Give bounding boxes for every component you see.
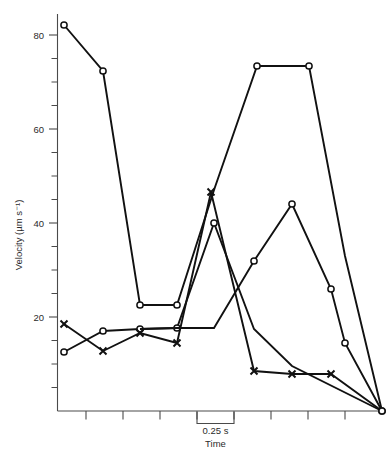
series-4-markers (251, 201, 348, 346)
data-point-marker (328, 286, 334, 292)
scale-bar-bracket (197, 412, 234, 424)
series-1-group (61, 22, 385, 414)
y-axis-title: Velocity (µm s⁻¹) (13, 200, 24, 271)
y-tick-label-40: 40 (33, 218, 44, 229)
y-tick-label-80: 80 (33, 30, 44, 41)
data-point-marker (100, 328, 106, 334)
series-1-line (64, 25, 382, 411)
x-axis-ticks (86, 411, 345, 420)
series-1-markers (61, 22, 385, 414)
data-point-marker (61, 22, 67, 28)
velocity-time-chart: 80 60 40 20 Velocity (µm s⁻¹) 0.25 s Tim… (0, 0, 388, 452)
data-point-marker (342, 340, 348, 346)
scale-bar-group: 0.25 s Time (197, 412, 234, 449)
data-point-marker (61, 349, 67, 355)
data-point-marker (211, 220, 217, 226)
data-point-marker (174, 302, 180, 308)
data-point-marker (137, 302, 143, 308)
y-tick-label-20: 20 (33, 312, 44, 323)
x-axis-title: Time (205, 438, 226, 449)
series-3-markers (61, 189, 335, 378)
data-point-marker (61, 321, 68, 328)
data-point-marker (251, 258, 257, 264)
data-point-marker (306, 63, 312, 69)
series-2-line (64, 223, 382, 411)
y-tick-label-60: 60 (33, 124, 44, 135)
chart-canvas: 80 60 40 20 Velocity (µm s⁻¹) 0.25 s Tim… (0, 0, 388, 452)
scale-bar-label: 0.25 s (203, 425, 229, 436)
data-point-marker (254, 63, 260, 69)
data-point-marker (289, 201, 295, 207)
y-axis-title-group: Velocity (µm s⁻¹) (13, 200, 24, 271)
data-point-marker (100, 68, 106, 74)
data-point-marker (100, 348, 107, 355)
y-axis-tick-labels: 80 60 40 20 (33, 30, 44, 323)
convergence-point-marker (379, 408, 385, 414)
